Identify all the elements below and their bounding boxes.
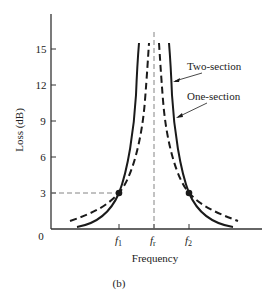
y-tick-3: 3 [40, 187, 46, 199]
x-tick-labels: f1 fr f2 [115, 234, 192, 248]
y-tick-9: 9 [40, 115, 46, 127]
marker-f1-3db [116, 190, 123, 197]
y-ticks [51, 49, 56, 193]
y-tick-0: 0 [38, 230, 44, 242]
two-section-arrowhead-icon [173, 78, 180, 82]
y-tick-12: 12 [36, 79, 47, 91]
x-tick-f2: f2 [185, 234, 192, 248]
loss-frequency-chart: 0 3 6 9 12 15 Loss (dB) f1 fr f2 Frequen… [0, 0, 274, 300]
x-tick-fr: fr [150, 234, 156, 248]
axes [51, 14, 262, 229]
y-axis-title: Loss (dB) [13, 108, 26, 152]
y-tick-labels: 0 3 6 9 12 15 [36, 43, 48, 242]
figure-caption: (b) [113, 277, 126, 290]
legend-one-section: One-section [187, 90, 241, 102]
x-tick-f1: f1 [115, 234, 122, 248]
legend-annotations: Two-section One-section [173, 60, 242, 118]
y-tick-6: 6 [40, 151, 46, 163]
legend-two-section: Two-section [187, 60, 242, 72]
two-section-left-branch [77, 43, 139, 227]
one-section-arrowhead-icon [176, 113, 183, 118]
marker-f2-3db [186, 190, 193, 197]
y-tick-15: 15 [36, 43, 48, 55]
x-axis-title: Frequency [132, 252, 179, 264]
